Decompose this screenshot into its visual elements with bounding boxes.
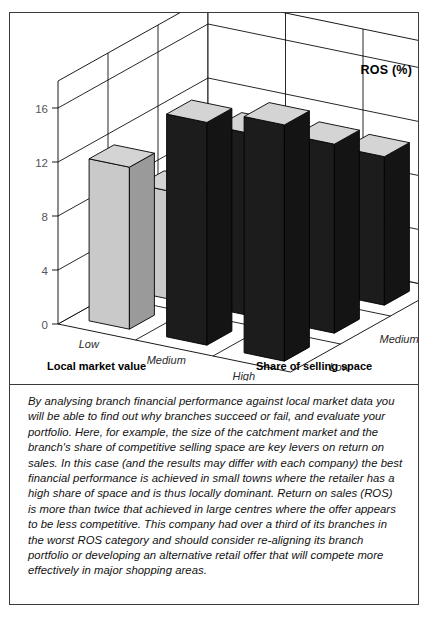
- left-tick-label: 8: [42, 211, 48, 223]
- left-category-label: Medium: [147, 354, 186, 366]
- left-tick-label: 0: [42, 319, 48, 331]
- bar-side-face: [284, 111, 309, 361]
- bar-front-face: [167, 114, 207, 345]
- bar-side-face: [207, 108, 232, 345]
- bar-side-face: [129, 153, 154, 329]
- figure-page: 04812160481216LowMediumHighLowMediumHigh…: [0, 0, 430, 618]
- chart-canvas: 04812160481216LowMediumHighLowMediumHigh: [10, 13, 418, 381]
- left-tick-label: 16: [35, 103, 48, 115]
- bar-front-face: [244, 117, 284, 362]
- section-divider: [9, 384, 419, 385]
- bar-front-face: [89, 159, 129, 329]
- left-tick-label: 12: [35, 157, 48, 169]
- left-tick-label: 4: [42, 265, 49, 277]
- right-axis-title: Share of selling space: [256, 360, 372, 372]
- caption-block: By analysing branch financial performanc…: [28, 394, 403, 579]
- chart-3d-bar: 04812160481216LowMediumHighLowMediumHigh: [10, 13, 418, 381]
- caption-paragraph: By analysing branch financial performanc…: [28, 394, 403, 579]
- bar-side-face: [334, 130, 359, 333]
- right-category-label: Medium: [380, 333, 419, 345]
- ros-axis-title: ROS (%): [361, 63, 412, 77]
- left-category-label: Low: [79, 338, 100, 350]
- left-category-label: High: [232, 370, 255, 381]
- bar-side-face: [384, 143, 409, 306]
- left-axis-title: Local market value: [47, 360, 146, 372]
